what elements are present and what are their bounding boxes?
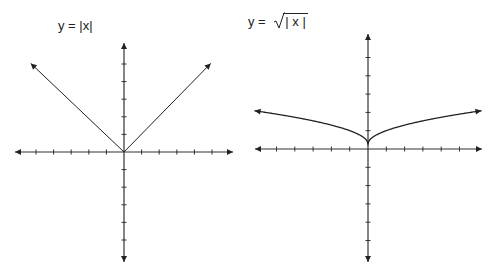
x-axis-arrow-icon bbox=[15, 149, 21, 155]
curve-arrow-icon bbox=[475, 109, 481, 115]
y-axis-arrow-icon bbox=[365, 256, 371, 262]
x-axis-arrow-icon bbox=[227, 149, 233, 155]
x-axis-arrow-icon bbox=[255, 146, 261, 152]
curve-arrow-icon bbox=[255, 109, 261, 115]
x-axis-arrow-icon bbox=[476, 146, 482, 152]
figure: y = |x| y = | x | bbox=[0, 0, 498, 275]
plot-area bbox=[0, 0, 498, 275]
y-axis-arrow-icon bbox=[121, 256, 127, 262]
abs-curve bbox=[31, 63, 211, 152]
y-axis-arrow-icon bbox=[365, 34, 371, 40]
y-axis-arrow-icon bbox=[121, 43, 127, 49]
